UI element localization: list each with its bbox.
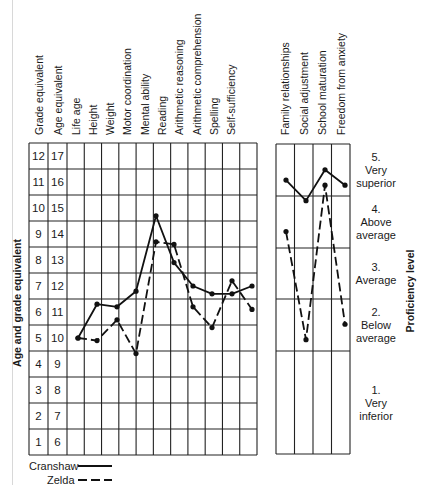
grade-tick: 3 — [35, 384, 41, 396]
data-point — [94, 302, 99, 307]
proficiency-band-label: 4.Aboveaverage — [356, 203, 396, 241]
data-point — [342, 322, 347, 327]
age-tick: 17 — [51, 150, 64, 162]
svg-text:Below: Below — [361, 319, 391, 331]
data-point — [283, 177, 288, 182]
svg-text:Above: Above — [360, 216, 391, 228]
age-tick: 10 — [51, 332, 64, 344]
column-header: Weight — [104, 102, 116, 135]
grade-tick: 9 — [35, 228, 41, 240]
grade-tick: 1 — [35, 436, 41, 448]
age-tick: 12 — [51, 280, 64, 292]
column-header: Reading — [156, 96, 168, 135]
age-tick: 15 — [51, 202, 64, 214]
column-header: Height — [87, 105, 99, 135]
data-point — [190, 283, 195, 288]
grade-tick: 8 — [35, 254, 41, 266]
column-header: Grade equivalent — [33, 55, 45, 135]
grade-tick: 10 — [32, 202, 45, 214]
data-point — [171, 260, 176, 265]
column-header: Freedom from anxiety — [335, 32, 347, 135]
column-header: Self-sufficiency — [225, 64, 237, 135]
data-point — [249, 307, 254, 312]
legend-label: Zelda — [47, 474, 75, 485]
svg-text:1.: 1. — [371, 384, 380, 396]
left-grid — [29, 143, 257, 455]
age-tick: 13 — [51, 254, 64, 266]
data-point — [171, 242, 176, 247]
data-point — [94, 338, 99, 343]
grade-tick: 2 — [35, 410, 41, 422]
data-point — [342, 183, 347, 188]
age-tick: 11 — [52, 306, 64, 318]
age-tick: 7 — [54, 410, 60, 422]
column-header: Arithmetic reasoning — [173, 39, 185, 135]
grade-tick: 12 — [32, 150, 45, 162]
column-header: Mental ability — [139, 73, 151, 135]
column-header: Age equivalent — [52, 65, 64, 135]
data-point — [75, 335, 80, 340]
age-tick: 16 — [51, 176, 64, 188]
age-tick: 6 — [54, 436, 60, 448]
svg-text:Very: Very — [365, 164, 388, 176]
data-point — [209, 325, 214, 330]
svg-text:superior: superior — [356, 177, 396, 189]
legend: CranshawZelda — [29, 460, 112, 485]
data-point — [249, 283, 254, 288]
proficiency-band-label: 2.Belowaverage — [356, 306, 396, 344]
data-point — [114, 317, 119, 322]
svg-text:inferior: inferior — [359, 410, 393, 422]
column-header: Life age — [70, 97, 82, 135]
column-header: Social adjustment — [298, 52, 310, 135]
column-header: Arithmetic comprehension — [191, 13, 203, 135]
data-point — [229, 291, 234, 296]
age-tick: 14 — [51, 228, 64, 240]
proficiency-profile-chart: 16273849510611712813914101511161217Grade… — [0, 0, 421, 485]
data-point — [190, 304, 195, 309]
data-point — [209, 291, 214, 296]
age-tick: 9 — [54, 358, 60, 370]
y-axis-label: Age and grade equivalent — [11, 239, 23, 367]
column-header: Spelling — [208, 97, 220, 135]
grade-tick: 7 — [35, 280, 41, 292]
data-point — [303, 198, 308, 203]
svg-text:average: average — [356, 332, 396, 344]
proficiency-band-label: 5.Verysuperior — [356, 151, 396, 189]
legend-label: Cranshaw — [29, 460, 79, 472]
grade-tick: 11 — [33, 176, 45, 188]
proficiency-band-label: 3.Average — [356, 261, 397, 286]
svg-text:average: average — [356, 229, 396, 241]
data-point — [114, 304, 119, 309]
column-header: Family relationships — [279, 42, 291, 135]
series-line-zelda — [78, 242, 252, 354]
data-point — [153, 239, 158, 244]
data-point — [153, 213, 158, 218]
data-point — [133, 289, 138, 294]
svg-text:2.: 2. — [371, 306, 380, 318]
svg-text:4.: 4. — [371, 203, 380, 215]
data-point — [283, 229, 288, 234]
data-point — [322, 183, 327, 188]
proficiency-band-label: 1.Veryinferior — [359, 384, 393, 422]
data-point — [229, 278, 234, 283]
age-tick: 8 — [54, 384, 60, 396]
grade-tick: 4 — [35, 358, 42, 370]
data-point — [303, 337, 308, 342]
svg-text:5.: 5. — [371, 151, 380, 163]
grade-tick: 5 — [35, 332, 41, 344]
svg-text:Very: Very — [365, 397, 388, 409]
column-header: School maturation — [316, 50, 328, 135]
proficiency-axis-label: Proficiency level — [404, 249, 416, 332]
svg-text:3.: 3. — [371, 261, 380, 273]
svg-text:Average: Average — [356, 274, 397, 286]
data-point — [133, 351, 138, 356]
grade-tick: 6 — [35, 306, 41, 318]
data-point — [322, 167, 327, 172]
series-line-cranshaw — [78, 216, 252, 338]
column-header: Motor coordination — [121, 48, 133, 135]
